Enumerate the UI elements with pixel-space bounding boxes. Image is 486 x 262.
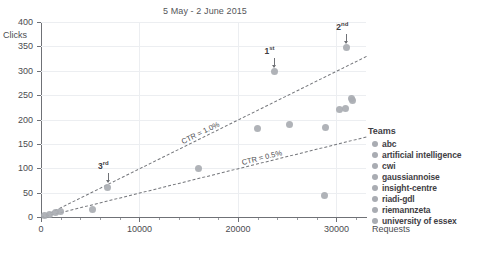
x-tick-label: 0 <box>11 224 71 234</box>
x-axis-line <box>41 217 367 218</box>
y-tick <box>37 71 41 72</box>
data-point[interactable] <box>349 97 356 104</box>
legend-item-artificial-intelligence[interactable]: artificial intelligence <box>367 149 486 160</box>
legend-item-label: riemannzeta <box>382 205 431 215</box>
legend-item-label: abc <box>382 139 396 149</box>
y-tick <box>37 46 41 47</box>
gridline-vertical <box>336 22 337 217</box>
ctr-reference-label: CTR = 1.0% <box>180 120 221 146</box>
data-point[interactable] <box>195 165 202 172</box>
rank-annotation-arrow <box>346 34 347 43</box>
data-point[interactable] <box>343 44 350 51</box>
y-axis-label: Clicks <box>3 30 27 40</box>
x-tick-minor <box>179 218 180 220</box>
x-tick <box>238 218 239 222</box>
y-tick-label: 350 <box>0 42 33 51</box>
scatter-chart: 5 May - 2 June 2015 Clicks Requests 0501… <box>0 0 486 262</box>
legend-marker-icon <box>372 185 378 191</box>
y-tick-label: 100 <box>0 164 33 173</box>
x-tick-minor <box>356 218 357 220</box>
data-point[interactable] <box>286 121 293 128</box>
data-point[interactable] <box>322 124 329 131</box>
legend-marker-icon <box>372 163 378 169</box>
x-tick <box>139 218 140 222</box>
gridline-horizontal <box>41 22 366 23</box>
x-tick-label: 10000 <box>109 224 169 234</box>
y-tick <box>37 144 41 145</box>
legend-item-label: cwi <box>382 161 395 171</box>
data-point[interactable] <box>342 105 349 112</box>
x-tick-minor <box>159 218 160 220</box>
legend-item-riemannzeta[interactable]: riemannzeta <box>367 204 486 215</box>
gridline-vertical <box>139 22 140 217</box>
data-point[interactable] <box>254 125 261 132</box>
x-tick-minor <box>120 218 121 220</box>
ctr-reference-label: CTR = 0.5% <box>240 149 282 168</box>
y-tick <box>37 120 41 121</box>
rank-annotation-3rd: 3rd <box>98 160 109 171</box>
rank-annotation-2nd: 2nd <box>336 21 348 32</box>
data-point[interactable] <box>89 206 96 213</box>
y-tick-label: 300 <box>0 67 33 76</box>
gridline-horizontal <box>41 168 366 169</box>
y-tick <box>37 193 41 194</box>
x-tick-minor <box>297 218 298 220</box>
x-tick <box>41 218 42 222</box>
x-tick-minor <box>100 218 101 220</box>
legend-marker-icon <box>372 141 378 147</box>
legend-item-gaussiannoise[interactable]: gaussiannoise <box>367 171 486 182</box>
x-tick-minor <box>80 218 81 220</box>
y-tick <box>37 22 41 23</box>
legend-item-label: university of essex <box>382 216 457 226</box>
legend-items: abcartificial intelligencecwigaussiannoi… <box>367 138 486 226</box>
legend-marker-icon <box>372 218 378 224</box>
gridline-horizontal <box>41 71 366 72</box>
data-point[interactable] <box>321 192 328 199</box>
gridline-horizontal <box>41 95 366 96</box>
y-tick <box>37 168 41 169</box>
legend-marker-icon <box>372 196 378 202</box>
legend-item-label: riadi-gdl <box>382 194 415 204</box>
y-tick-label: 50 <box>0 189 33 198</box>
data-point[interactable] <box>271 68 278 75</box>
legend: Teams abcartificial intelligencecwigauss… <box>367 126 486 226</box>
data-point[interactable] <box>57 208 64 215</box>
y-tick-label: 250 <box>0 91 33 100</box>
y-tick-label: 150 <box>0 140 33 149</box>
rank-annotation-arrow <box>274 58 275 67</box>
ctr-reference-line <box>41 56 366 218</box>
legend-item-university-of-essex[interactable]: university of essex <box>367 215 486 226</box>
data-point[interactable] <box>104 184 111 191</box>
y-tick-label: 0 <box>0 213 33 222</box>
legend-item-riadi-gdl[interactable]: riadi-gdl <box>367 193 486 204</box>
chart-title: 5 May - 2 June 2015 <box>125 6 285 16</box>
legend-item-abc[interactable]: abc <box>367 138 486 149</box>
gridline-horizontal <box>41 144 366 145</box>
legend-item-insight-centre[interactable]: insight-centre <box>367 182 486 193</box>
x-tick-minor <box>277 218 278 220</box>
legend-item-label: insight-centre <box>382 183 437 193</box>
legend-title: Teams <box>367 126 486 136</box>
rank-annotation-arrow <box>108 173 109 182</box>
gridline-horizontal <box>41 46 366 47</box>
legend-marker-icon <box>372 207 378 213</box>
legend-marker-icon <box>372 174 378 180</box>
y-tick-label: 400 <box>0 18 33 27</box>
x-tick-minor <box>258 218 259 220</box>
x-tick-minor <box>61 218 62 220</box>
x-tick-label: 30000 <box>306 224 366 234</box>
y-tick-label: 200 <box>0 116 33 125</box>
x-tick-label: 20000 <box>208 224 268 234</box>
plot-area: 050100150200250300350400 010000200003000… <box>41 22 366 217</box>
gridline-horizontal <box>41 120 366 121</box>
x-tick-minor <box>317 218 318 220</box>
x-tick-minor <box>218 218 219 220</box>
legend-marker-icon <box>372 152 378 158</box>
rank-annotation-1st: 1st <box>264 45 274 56</box>
x-tick-minor <box>199 218 200 220</box>
legend-item-label: artificial intelligence <box>382 150 461 160</box>
legend-item-label: gaussiannoise <box>382 172 440 182</box>
x-tick <box>336 218 337 222</box>
legend-item-cwi[interactable]: cwi <box>367 160 486 171</box>
y-tick <box>37 95 41 96</box>
